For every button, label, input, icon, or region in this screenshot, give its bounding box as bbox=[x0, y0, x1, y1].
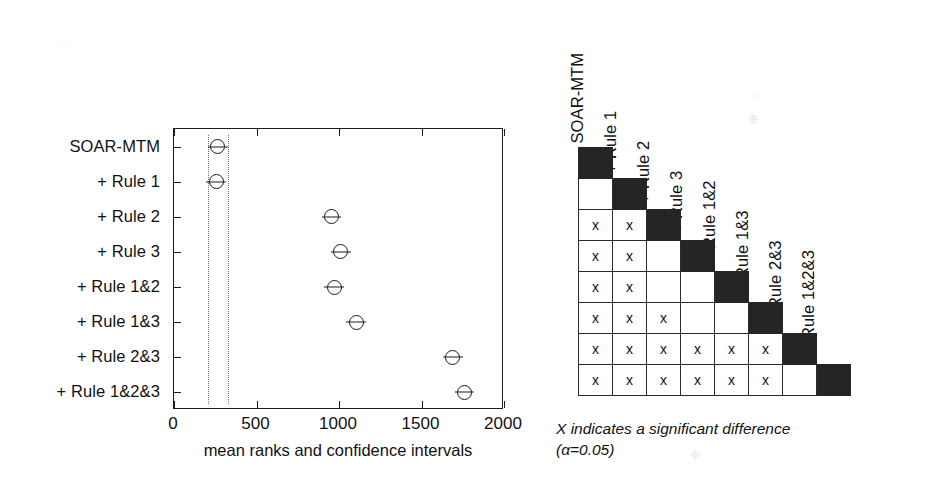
x-axis-tick-label: 2000 bbox=[484, 414, 522, 434]
matrix-column-header: SOAR-MTM bbox=[569, 52, 586, 143]
x-axis-tick-label: 1000 bbox=[319, 414, 357, 434]
mean-rank-circle-marker bbox=[349, 315, 364, 330]
y-axis-tick bbox=[174, 357, 181, 358]
matrix-cell-blank bbox=[783, 210, 817, 241]
matrix-cell-blank bbox=[715, 148, 749, 179]
matrix-cell-blank bbox=[817, 148, 851, 179]
mean-rank-circle-marker bbox=[210, 139, 225, 154]
matrix-cell-significant: x bbox=[613, 210, 647, 241]
matrix-cell-blank bbox=[715, 241, 749, 272]
category-label: + Rule 1&2 bbox=[77, 277, 160, 295]
x-axis-tick-top bbox=[504, 129, 505, 136]
matrix-column-headers: SOAR-MTM+ Rule 1+ Rule 2+ Rule 3+ Rule 1… bbox=[578, 0, 918, 150]
category-label: + Rule 1 bbox=[97, 172, 160, 190]
caption-line-2: (α=0.05) bbox=[556, 439, 926, 460]
matrix-cell-blank bbox=[715, 179, 749, 210]
matrix-cell-significant: x bbox=[749, 365, 783, 396]
matrix-cell-not-significant bbox=[647, 272, 681, 303]
value-axis-tick-labels: 0500100015002000 bbox=[173, 414, 503, 438]
x-axis-tick-top bbox=[422, 129, 423, 136]
matrix-cell-significant: x bbox=[647, 365, 681, 396]
category-label: + Rule 1&3 bbox=[77, 312, 160, 330]
category-label: + Rule 3 bbox=[97, 242, 160, 260]
category-label: + Rule 2&3 bbox=[77, 347, 160, 365]
x-axis-tick-label: 0 bbox=[168, 414, 177, 434]
matrix-row bbox=[579, 179, 851, 210]
matrix-cell-diagonal bbox=[715, 272, 749, 303]
matrix-row: xxxxxx bbox=[579, 334, 851, 365]
x-axis-tick bbox=[174, 401, 175, 408]
mean-rank-circle-marker bbox=[333, 244, 348, 259]
matrix-cell-significant: x bbox=[681, 334, 715, 365]
matrix-cell-significant: x bbox=[613, 365, 647, 396]
matrix-cell-significant: x bbox=[613, 334, 647, 365]
matrix-cell-significant: x bbox=[579, 210, 613, 241]
mean-rank-circle-marker bbox=[445, 350, 460, 365]
matrix-row: xx bbox=[579, 241, 851, 272]
y-axis-tick bbox=[174, 322, 181, 323]
significance-matrix-panel: SOAR-MTM+ Rule 1+ Rule 2+ Rule 3+ Rule 1… bbox=[520, 0, 936, 491]
matrix-cell-significant: x bbox=[579, 272, 613, 303]
x-axis-tick-top bbox=[257, 129, 258, 136]
matrix-cell-significant: x bbox=[613, 303, 647, 334]
matrix-cell-blank bbox=[715, 210, 749, 241]
matrix-cell-blank bbox=[783, 179, 817, 210]
mean-rank-circle-marker bbox=[209, 174, 224, 189]
matrix-cell-blank bbox=[817, 210, 851, 241]
mean-rank-circle-marker bbox=[327, 280, 342, 295]
significance-matrix-grid: xxxxxxxxxxxxxxxxxxxxx bbox=[578, 147, 851, 396]
y-axis-tick bbox=[174, 147, 181, 148]
matrix-cell-blank bbox=[817, 241, 851, 272]
y-axis-tick bbox=[174, 252, 181, 253]
mean-ranks-dot-plot: SOAR-MTM+ Rule 1+ Rule 2+ Rule 3+ Rule 1… bbox=[0, 0, 520, 491]
y-axis-tick bbox=[174, 217, 181, 218]
matrix-cell-diagonal bbox=[749, 303, 783, 334]
y-axis-tick bbox=[174, 182, 181, 183]
matrix-row: xx bbox=[579, 272, 851, 303]
matrix-cell-significant: x bbox=[647, 303, 681, 334]
matrix-cell-blank bbox=[783, 272, 817, 303]
matrix-cell-significant: x bbox=[715, 334, 749, 365]
matrix-cell-diagonal bbox=[681, 241, 715, 272]
matrix-cell-not-significant bbox=[783, 365, 817, 396]
reference-line bbox=[208, 135, 209, 404]
matrix-cell-blank bbox=[783, 148, 817, 179]
matrix-cell-significant: x bbox=[579, 303, 613, 334]
matrix-cell-blank bbox=[783, 303, 817, 334]
mean-rank-circle-marker bbox=[324, 209, 339, 224]
matrix-row: xxxxxx bbox=[579, 365, 851, 396]
matrix-cell-blank bbox=[749, 179, 783, 210]
matrix-cell-blank bbox=[817, 179, 851, 210]
matrix-cell-blank bbox=[749, 148, 783, 179]
matrix-row bbox=[579, 148, 851, 179]
category-axis-labels: SOAR-MTM+ Rule 1+ Rule 2+ Rule 3+ Rule 1… bbox=[0, 128, 168, 409]
matrix-cell-not-significant bbox=[681, 272, 715, 303]
matrix-body: xxxxxxxxxxxxxxxxxxxxx bbox=[579, 148, 851, 396]
matrix-cell-blank bbox=[681, 179, 715, 210]
matrix-cell-blank bbox=[681, 210, 715, 241]
matrix-cell-diagonal bbox=[783, 334, 817, 365]
matrix-cell-significant: x bbox=[613, 272, 647, 303]
matrix-cell-significant: x bbox=[579, 241, 613, 272]
matrix-cell-blank bbox=[749, 210, 783, 241]
matrix-cell-blank bbox=[613, 148, 647, 179]
mean-rank-circle-marker bbox=[457, 385, 472, 400]
matrix-cell-significant: x bbox=[579, 365, 613, 396]
x-axis-tick-label: 1500 bbox=[402, 414, 440, 434]
matrix-cell-significant: x bbox=[715, 365, 749, 396]
matrix-cell-diagonal bbox=[579, 148, 613, 179]
plot-frame bbox=[173, 128, 503, 409]
matrix-cell-blank bbox=[817, 334, 851, 365]
matrix-cell-blank bbox=[817, 303, 851, 334]
category-label: + Rule 1&2&3 bbox=[57, 382, 160, 400]
matrix-cell-blank bbox=[681, 148, 715, 179]
y-axis-tick bbox=[174, 287, 181, 288]
caption-line-1: X indicates a significant difference bbox=[556, 418, 926, 439]
matrix-cell-diagonal bbox=[817, 365, 851, 396]
matrix-cell-blank bbox=[647, 179, 681, 210]
matrix-cell-blank bbox=[817, 272, 851, 303]
matrix-cell-significant: x bbox=[749, 334, 783, 365]
matrix-cell-diagonal bbox=[647, 210, 681, 241]
x-axis-tick-label: 500 bbox=[241, 414, 269, 434]
x-axis-title: mean ranks and confidence intervals bbox=[173, 441, 503, 460]
